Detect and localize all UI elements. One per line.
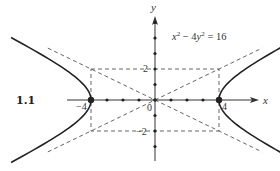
x-tick-dot [169,98,172,101]
y-tick-dot [153,83,156,86]
origin-point [153,98,157,102]
x-tick-dot [185,98,188,101]
origin-label: 0 [147,102,152,113]
figure-label: 1.1 [16,94,35,107]
y-tick-dot [153,36,156,39]
axes [67,16,259,161]
x-tick-dot [121,98,124,101]
y-axis-label: y [150,1,156,13]
hyperbola-diagram: 1.1 x y x2 − 4y2 = 16 −4 4 2 −2 0 [0,0,280,171]
y-tick-dot [153,129,156,132]
x-tick-dot [137,98,140,101]
vertex-point [88,97,94,103]
x-tick-label-neg4: −4 [76,101,87,112]
y-tick-label-neg2: −2 [136,126,147,137]
y-tick-dot [153,52,156,55]
y-tick-label-2: 2 [143,63,148,74]
x-tick-label-4: 4 [222,101,227,112]
y-tick-dot [153,21,156,24]
x-tick-dot [201,98,204,101]
equation-label: x2 − 4y2 = 16 [171,30,226,42]
x-axis-label: x [262,94,268,106]
y-tick-dot [153,114,156,117]
x-tick-dot [105,98,108,101]
y-tick-dot [153,67,156,70]
y-tick-dot [153,145,156,148]
